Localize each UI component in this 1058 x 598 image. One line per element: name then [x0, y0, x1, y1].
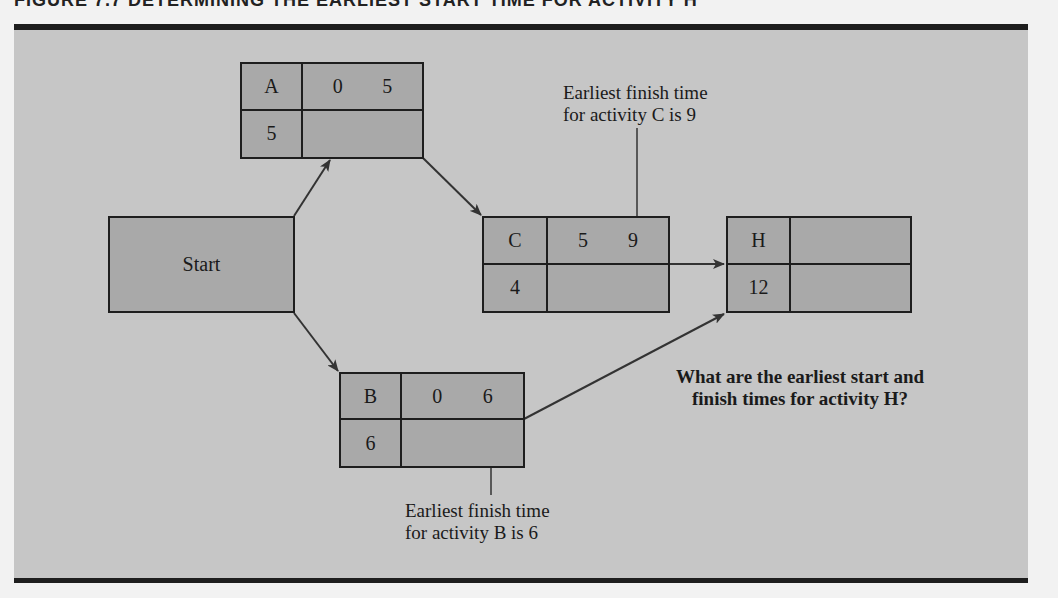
- note-c-line1: Earliest finish time: [563, 82, 708, 104]
- question-line2: finish times for activity H?: [650, 388, 950, 410]
- node-b-ef: 6: [483, 385, 493, 408]
- node-h-name: H: [728, 218, 791, 265]
- node-b-name: B: [341, 374, 402, 420]
- node-c-times: 5 9: [548, 218, 668, 265]
- node-a-times: 0 5: [303, 64, 422, 111]
- node-c-blank: [548, 265, 668, 312]
- note-b-finish: Earliest finish time for activity B is 6: [405, 500, 550, 544]
- node-b: B 0 6 6: [339, 372, 525, 468]
- start-label: Start: [183, 253, 221, 276]
- node-c-ef: 9: [628, 229, 638, 252]
- note-c-line2: for activity C is 9: [563, 104, 708, 126]
- node-a-duration: 5: [242, 111, 303, 158]
- edge-a-c: [423, 158, 481, 215]
- node-h: H 12: [726, 216, 912, 313]
- question-line1: What are the earliest start and: [650, 366, 950, 388]
- node-b-blank: [402, 420, 523, 466]
- node-h-duration: 12: [728, 265, 791, 312]
- edge-start-b: [294, 313, 338, 371]
- node-c-name: C: [484, 218, 548, 265]
- node-c: C 5 9 4: [482, 216, 670, 313]
- node-h-times: [791, 218, 910, 265]
- node-a-name: A: [242, 64, 303, 111]
- note-b-line2: for activity B is 6: [405, 522, 550, 544]
- start-node: Start: [108, 216, 295, 313]
- node-a-ef: 5: [382, 75, 392, 98]
- node-h-blank: [791, 265, 910, 312]
- note-c-finish: Earliest finish time for activity C is 9: [563, 82, 708, 126]
- node-c-es: 5: [578, 229, 588, 252]
- node-b-times: 0 6: [402, 374, 523, 420]
- question-text: What are the earliest start and finish t…: [650, 366, 950, 410]
- node-a: A 0 5 5: [240, 62, 424, 159]
- node-c-duration: 4: [484, 265, 548, 312]
- node-a-blank: [303, 111, 422, 158]
- note-b-line1: Earliest finish time: [405, 500, 550, 522]
- node-b-es: 0: [432, 385, 442, 408]
- node-a-es: 0: [333, 75, 343, 98]
- node-b-duration: 6: [341, 420, 402, 466]
- edge-start-a: [294, 160, 330, 216]
